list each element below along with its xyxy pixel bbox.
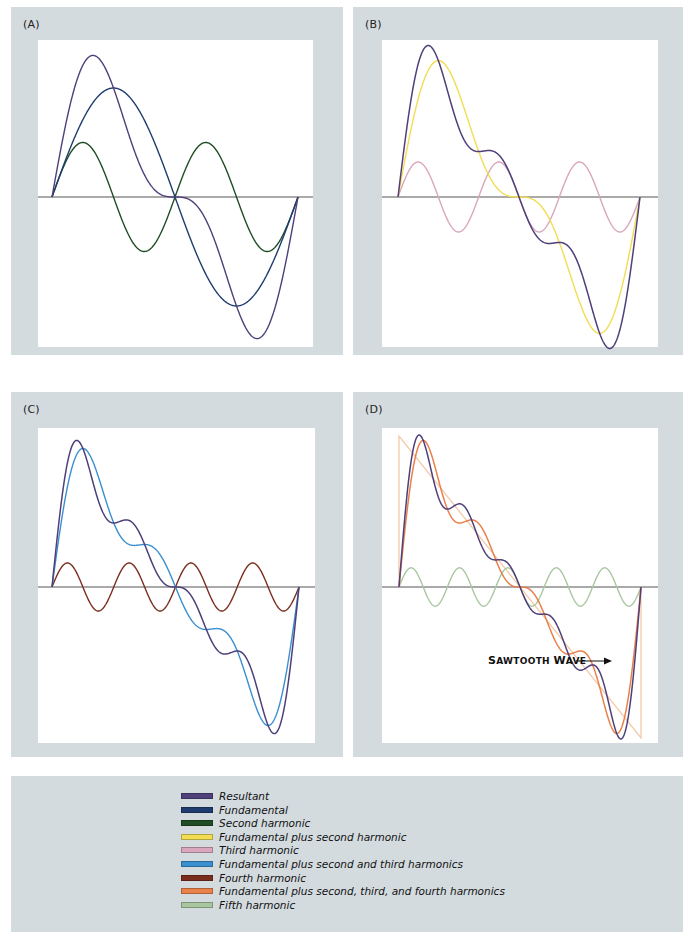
- legend-swatch: [181, 861, 213, 867]
- legend-item: Fundamental plus second harmonic: [181, 831, 406, 843]
- panel-label: (B): [365, 18, 382, 31]
- legend-label: Fourth harmonic: [219, 872, 306, 884]
- panel-label: (D): [365, 403, 383, 416]
- legend-swatch: [181, 902, 213, 908]
- legend-label: Resultant: [219, 790, 269, 802]
- legend-swatch: [181, 847, 213, 853]
- legend-item: Third harmonic: [181, 844, 299, 856]
- legend-label: Fundamental plus second harmonic: [219, 831, 406, 843]
- waveform-plot: [382, 428, 658, 743]
- panel-label: (A): [23, 18, 40, 31]
- waveform-plot: [382, 40, 658, 347]
- legend-swatch: [181, 793, 213, 799]
- legend-swatch: [181, 888, 213, 894]
- legend-label: Fundamental plus second and third harmon…: [219, 858, 463, 870]
- annotation-s: S: [488, 654, 496, 667]
- panel-label: (C): [23, 403, 40, 416]
- annotation-w: W: [553, 654, 565, 667]
- arrow-right-icon: [576, 656, 612, 666]
- legend-item: Resultant: [181, 790, 269, 802]
- legend-swatch: [181, 820, 213, 826]
- sawtooth-wave-annotation: SAWTOOTH WAVE: [488, 654, 586, 667]
- legend-label: Third harmonic: [219, 844, 299, 856]
- legend-item: Fourth harmonic: [181, 872, 306, 884]
- legend-swatch: [181, 834, 213, 840]
- legend: ResultantFundamentalSecond harmonicFunda…: [11, 776, 683, 932]
- legend-item: Fundamental plus second, third, and four…: [181, 885, 505, 897]
- legend-swatch: [181, 807, 213, 813]
- legend-label: Second harmonic: [219, 817, 310, 829]
- legend-swatch: [181, 875, 213, 881]
- legend-label: Fundamental: [219, 804, 288, 816]
- legend-label: Fundamental plus second, third, and four…: [219, 885, 505, 897]
- legend-item: Fundamental plus second and third harmon…: [181, 858, 463, 870]
- waveform-plot: [38, 40, 313, 347]
- legend-item: Fundamental: [181, 804, 288, 816]
- legend-label: Fifth harmonic: [219, 899, 295, 911]
- annotation-rest1: AWTOOTH: [496, 656, 553, 666]
- legend-item: Second harmonic: [181, 817, 310, 829]
- waveform-plot: [38, 428, 315, 743]
- legend-item: Fifth harmonic: [181, 899, 295, 911]
